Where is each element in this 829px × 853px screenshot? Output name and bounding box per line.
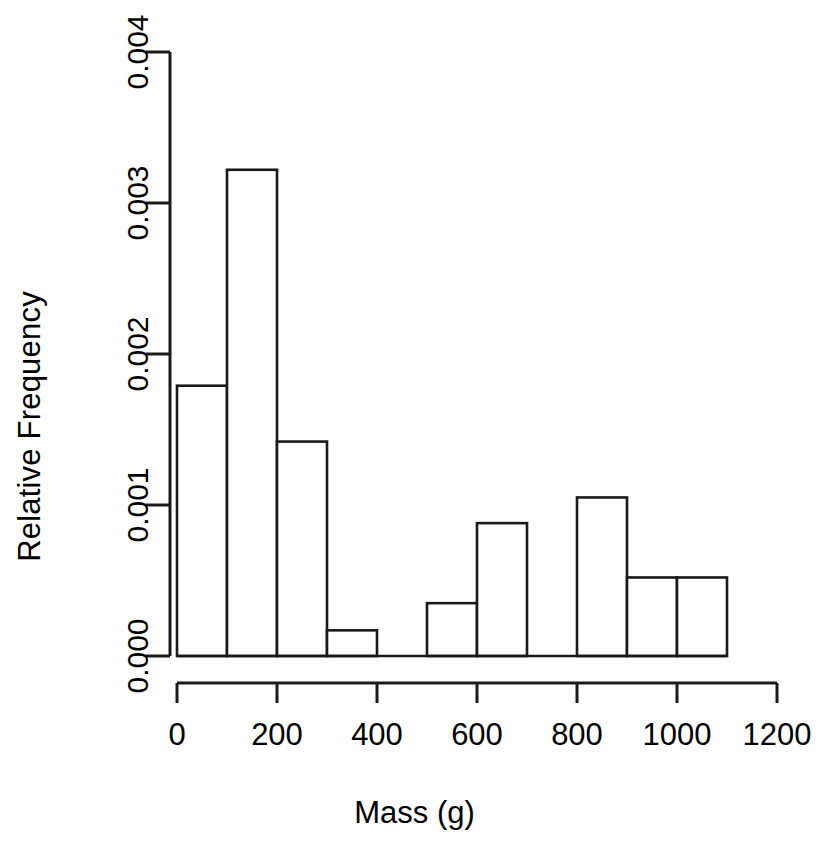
y-axis-label: Relative Frequency	[0, 0, 60, 853]
x-tick-label: 800	[551, 717, 603, 753]
x-axis-label: Mass (g)	[0, 795, 829, 831]
histogram-bar	[677, 577, 727, 656]
x-tick-label: 200	[251, 717, 303, 753]
x-tick-label: 1000	[643, 717, 712, 753]
histogram-bar	[277, 442, 327, 656]
y-tick-label: 0.004	[120, 0, 156, 107]
bars-group	[177, 170, 727, 656]
x-axis	[177, 683, 777, 703]
histogram-bar	[327, 630, 377, 656]
histogram-bar	[627, 577, 677, 656]
histogram-bar	[227, 170, 277, 656]
x-tick-label: 400	[351, 717, 403, 753]
histogram-bar	[427, 603, 477, 656]
y-tick-label: 0.000	[120, 601, 156, 711]
histogram-bar	[177, 386, 227, 656]
x-tick-label: 1200	[743, 717, 812, 753]
histogram-bar	[577, 497, 627, 656]
y-tick-label: 0.002	[120, 299, 156, 409]
x-tick-label: 600	[451, 717, 503, 753]
histogram-bar	[477, 523, 527, 656]
x-tick-label: 0	[168, 717, 185, 753]
histogram-figure: 0.0000.0010.0020.0030.004 02004006008001…	[0, 0, 829, 853]
y-tick-label: 0.001	[120, 450, 156, 560]
y-tick-label: 0.003	[120, 148, 156, 258]
